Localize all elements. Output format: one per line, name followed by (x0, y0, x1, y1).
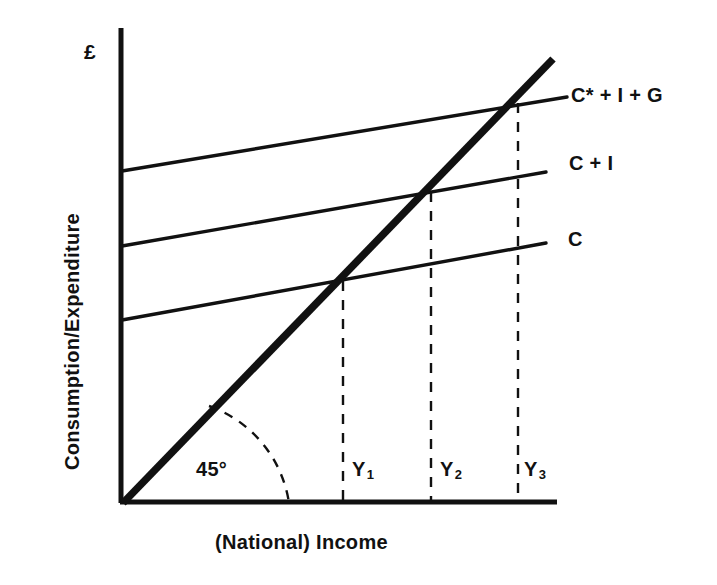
x-tick-y2-subscript: 2 (455, 467, 463, 482)
currency-symbol-pound: £ (84, 40, 96, 64)
consumption-line-c-plus-i (122, 172, 546, 246)
x-tick-y1-base: Y (352, 458, 366, 480)
x-tick-label-y1: Y1 (352, 458, 373, 481)
x-tick-y3-base: Y (524, 458, 538, 480)
series-label-c: C (568, 228, 583, 251)
forty-five-degree-arc (209, 406, 289, 503)
x-tick-y3-subscript: 3 (539, 467, 547, 482)
series-label-c-star-plus-i-plus-g: C* + I + G (571, 84, 663, 107)
x-tick-label-y3: Y3 (524, 458, 545, 481)
keynesian-cross-figure: £ Consumption/Expenditure (National) Inc… (0, 0, 717, 585)
x-axis-title: (National) Income (215, 531, 388, 554)
x-tick-y2-base: Y (440, 458, 454, 480)
forty-five-degree-line (123, 59, 553, 503)
forty-five-degree-angle-label: 45° (196, 458, 227, 481)
x-tick-y1-subscript: 1 (367, 467, 375, 482)
x-tick-label-y2: Y2 (440, 458, 461, 481)
series-label-c-plus-i: C + I (569, 152, 613, 175)
y-axis-title: Consumption/Expenditure (61, 182, 84, 502)
